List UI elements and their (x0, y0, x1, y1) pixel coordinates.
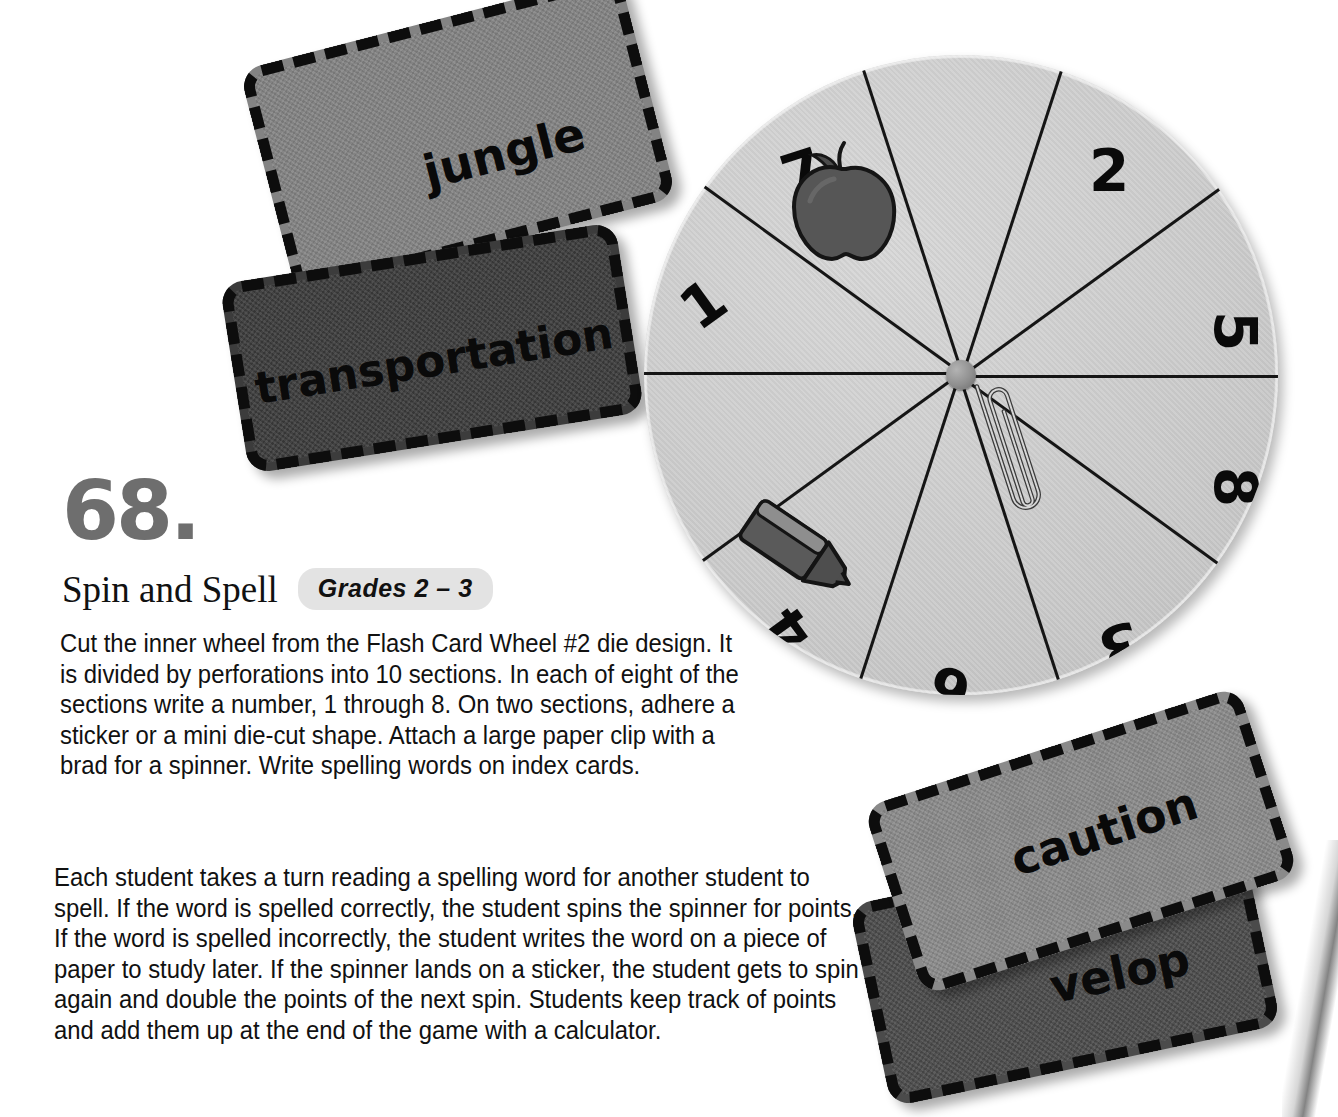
activity-number: 68. (62, 470, 198, 552)
page-title: Spin and Spell (62, 571, 278, 608)
wheel-face: 2 5 8 3 6 4 1 7 (644, 55, 1278, 695)
wheel-spoke (644, 372, 961, 375)
flash-card-word: caution (1004, 776, 1204, 887)
instructions-paragraph-2: Each student takes a turn reading a spel… (54, 862, 864, 1045)
grades-badge: Grades 2 – 3 (298, 568, 493, 610)
apple-sticker (776, 139, 908, 267)
wheel-number-5: 5 (1167, 331, 1235, 371)
flash-card-word: transportation (251, 306, 616, 413)
page-canvas: jungle transportation 2 5 8 3 6 4 (0, 0, 1338, 1117)
wheel-number-8: 8 (1167, 487, 1235, 527)
flash-card-transportation[interactable]: transportation (219, 222, 644, 474)
wheel-number-label: 5 (1201, 311, 1269, 351)
wheel-number-2: 2 (1109, 171, 1149, 239)
brad-pivot (946, 360, 976, 390)
page-edge-shadow (1282, 840, 1338, 1117)
instructions-paragraph-1: Cut the inner wheel from the Flash Card … (60, 628, 744, 781)
wheel-number-label: 2 (1089, 137, 1129, 205)
spinner-wheel[interactable]: 2 5 8 3 6 4 1 7 (644, 55, 1278, 695)
flash-card-word: jungle (417, 105, 590, 199)
wheel-number-label: 8 (1201, 467, 1269, 507)
crayon-sticker (734, 497, 862, 607)
title-row: Spin and Spell Grades 2 – 3 (62, 568, 493, 610)
